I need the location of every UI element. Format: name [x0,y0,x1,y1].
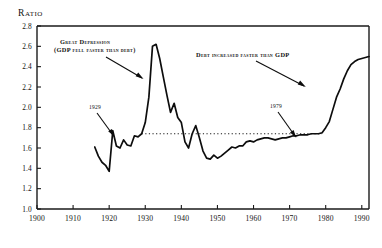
x-tick-label: 1950 [209,214,225,223]
x-tick-label: 1990 [354,214,370,223]
x-tick-label: 1900 [29,214,45,223]
y-tick-label: 1.0 [22,205,32,214]
x-tick-label: 1930 [137,214,153,223]
x-tick-label: 1970 [282,214,298,223]
great-depression-label-line2: (GDP fell faster than debt) [54,46,136,54]
y-tick-label: 2.0 [22,103,32,112]
great-depression-label-line1: Great Depression [60,38,110,45]
y-tick-label: 1.8 [22,123,32,132]
year-1979-label: 1979 [270,103,282,109]
x-tick-label: 1940 [173,214,189,223]
debt-faster-label: Debt increased faster than GDP [196,51,290,58]
y-tick-label: 1.4 [22,164,32,173]
y-axis-title: Ratio [18,7,43,18]
y-tick-label: 2.8 [22,22,32,31]
y-tick-label: 2.2 [22,83,32,92]
y-tick-label: 1.6 [22,144,32,153]
y-tick-label: 2.6 [22,42,32,51]
x-tick-label: 1980 [318,214,334,223]
y-tick-label: 2.4 [22,62,32,71]
x-tick-label: 1920 [101,214,117,223]
chart-canvas: Ratio 1.01.21.41.61.82.02.22.42.62.8 190… [0,0,382,248]
x-tick-label: 1910 [65,214,81,223]
y-tick-label: 1.2 [22,184,32,193]
chart-background [0,0,382,248]
debt-to-gdp-ratio-chart: Ratio 1.01.21.41.61.82.02.22.42.62.8 190… [0,0,382,248]
x-tick-label: 1960 [246,214,262,223]
year-1929-label: 1929 [89,104,101,110]
